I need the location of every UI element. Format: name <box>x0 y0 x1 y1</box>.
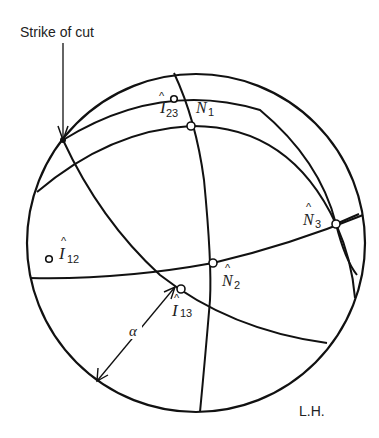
svg-text:N: N <box>302 211 315 228</box>
svg-text:13: 13 <box>180 307 192 319</box>
svg-text:N: N <box>195 99 208 116</box>
primitive-circle <box>27 74 365 412</box>
label-i12: ^ I 12 <box>58 235 79 265</box>
label-n3: ^ N 3 <box>302 201 321 230</box>
stereonet-diagram: Strike of cut α ^ I 23 N 1 ^ N 3 ^ I 12 <box>0 0 379 438</box>
point-n3-marker <box>332 220 340 228</box>
strike-label: Strike of cut <box>20 24 94 40</box>
svg-text:2: 2 <box>234 279 240 291</box>
label-n1: N 1 <box>195 99 214 118</box>
svg-text:N: N <box>221 272 234 289</box>
svg-text:23: 23 <box>166 107 178 119</box>
svg-text:12: 12 <box>67 253 79 265</box>
label-i23: ^ I 23 <box>159 90 178 119</box>
point-n1-marker <box>187 122 195 130</box>
alpha-label: α <box>129 323 138 339</box>
label-n2: ^ N 2 <box>221 262 240 291</box>
svg-text:1: 1 <box>208 106 214 118</box>
point-i12-marker <box>46 256 53 263</box>
point-i23-marker <box>171 96 178 103</box>
hemisphere-label: L.H. <box>299 403 325 419</box>
svg-text:3: 3 <box>315 218 321 230</box>
point-n2-marker <box>209 259 217 267</box>
